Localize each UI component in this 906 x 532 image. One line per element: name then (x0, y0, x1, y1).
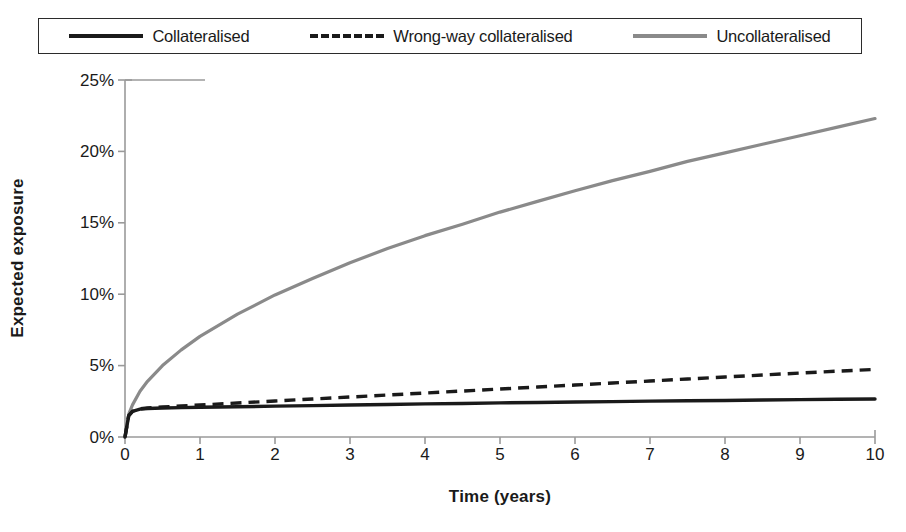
series-line-uncollateralised (125, 119, 875, 437)
data-series-group (125, 119, 875, 437)
axis-spines (125, 80, 875, 437)
series-line-collateralised (125, 399, 875, 437)
plot-area (0, 0, 906, 532)
y-axis-ticks (118, 151, 125, 437)
chart-figure: Collateralised Wrong-way collateralised … (0, 0, 906, 532)
axis-end-caps (118, 80, 875, 444)
x-axis-ticks (125, 437, 800, 444)
